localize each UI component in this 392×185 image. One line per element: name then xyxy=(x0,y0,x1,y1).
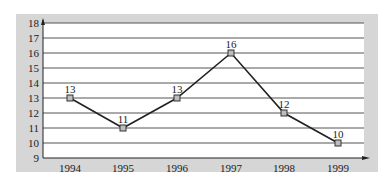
data-label: 16 xyxy=(226,38,238,50)
x-tick-label: 1995 xyxy=(112,162,135,174)
y-tick-label: 17 xyxy=(28,32,40,44)
x-axis-arrow-icon xyxy=(362,156,370,160)
y-axis-arrow-icon xyxy=(41,18,45,25)
y-tick-label: 12 xyxy=(28,107,39,119)
data-label: 13 xyxy=(65,83,77,95)
data-point-marker xyxy=(120,125,126,131)
y-tick-label: 9 xyxy=(34,152,40,164)
x-tick-label: 1999 xyxy=(327,162,350,174)
data-point-marker xyxy=(228,50,234,56)
line-chart: 9101112131415161718 19941995199619971998… xyxy=(0,0,392,185)
x-tick-label: 1994 xyxy=(59,162,82,174)
data-point-marker xyxy=(67,95,73,101)
x-tick-label: 1996 xyxy=(166,162,189,174)
x-tick-label: 1997 xyxy=(220,162,243,174)
data-label: 12 xyxy=(279,98,290,110)
plot-area xyxy=(43,23,364,158)
y-axis-ticks: 9101112131415161718 xyxy=(28,17,40,164)
y-tick-label: 16 xyxy=(28,47,40,59)
data-label: 11 xyxy=(118,113,129,125)
y-tick-label: 13 xyxy=(28,92,40,104)
y-tick-label: 15 xyxy=(28,62,40,74)
x-tick-label: 1998 xyxy=(273,162,296,174)
data-point-marker xyxy=(335,140,341,146)
y-tick-label: 18 xyxy=(28,17,40,29)
y-tick-label: 11 xyxy=(28,122,39,134)
data-point-marker xyxy=(174,95,180,101)
data-label: 13 xyxy=(172,83,184,95)
data-label: 10 xyxy=(333,128,345,140)
data-point-marker xyxy=(281,110,287,116)
x-axis-ticks: 199419951996199719981999 xyxy=(59,162,350,174)
y-tick-label: 14 xyxy=(28,77,40,89)
y-tick-label: 10 xyxy=(28,137,40,149)
